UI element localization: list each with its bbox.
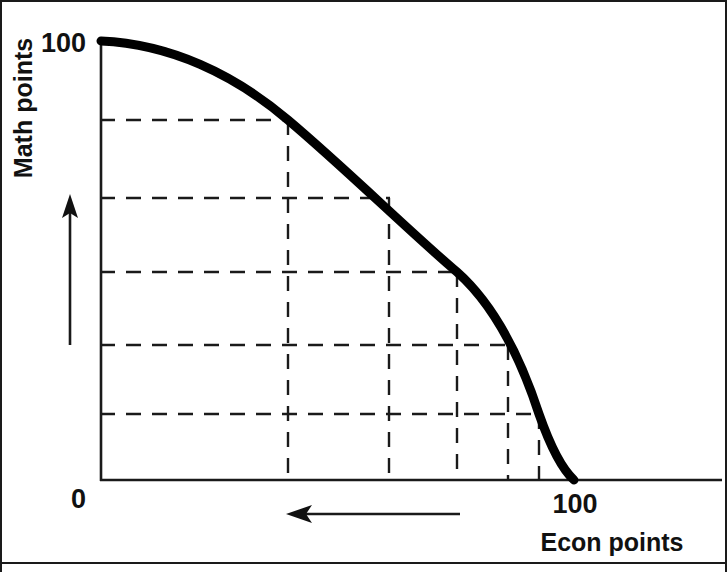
figure-container: 100 0 100 Econ points Math points [0,0,727,572]
y-axis-origin-label: 0 [71,484,86,514]
vertical-guide-lines [288,120,539,480]
figure-border [0,0,727,572]
y-axis-title: Math points [9,38,37,178]
left-arrow-annotation [286,505,460,523]
ppf-chart: 100 0 100 Econ points Math points [0,0,727,572]
y-axis-max-tick-label: 100 [41,28,86,58]
x-axis-max-tick-label: 100 [552,489,597,519]
x-axis-title: Econ points [540,528,683,556]
horizontal-guide-lines [100,120,540,414]
axis-lines [100,38,722,481]
up-arrow-annotation [62,194,78,345]
